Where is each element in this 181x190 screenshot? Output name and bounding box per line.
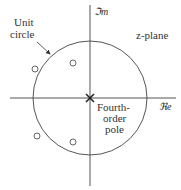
zero-marker (34, 133, 40, 139)
pole-zero-diagram: Unit circle ℑm ℜe z-plane Fourth- order … (0, 0, 181, 190)
pole-label: pole (105, 123, 124, 135)
zero-marker (70, 139, 76, 145)
plane-label: z-plane (136, 29, 168, 41)
zero-marker (70, 60, 76, 66)
unit-circle-label: Unit (14, 16, 34, 28)
real-axis-label: ℜe (159, 101, 172, 112)
unit-circle-label: circle (10, 28, 35, 40)
imaginary-axis-label: ℑm (94, 6, 108, 17)
zero-marker (32, 66, 38, 72)
unit-circle-arrow (37, 42, 50, 54)
